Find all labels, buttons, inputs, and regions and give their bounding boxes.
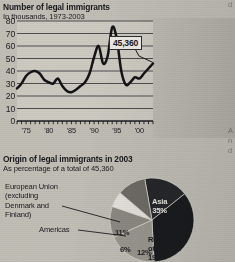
- y-axis-tick-label: 60: [6, 41, 15, 51]
- line-chart-title: Number of legal immigrants: [3, 2, 110, 12]
- pie-slice-label-americas: 6%: [120, 246, 131, 255]
- infographic-page: Number of legal immigrants In thousands,…: [0, 0, 235, 262]
- pie-chart-subtitle: As percentage of a total of 45,360: [3, 164, 114, 173]
- pie-annotation-european-union: European Union (excluding Denmark and Fi…: [5, 182, 58, 220]
- y-axis-tick-label: 80: [6, 16, 15, 26]
- y-axis-tick-label: 40: [6, 66, 15, 76]
- x-axis-tick-label: '90: [90, 126, 99, 135]
- pie-annotation-americas: Americas: [39, 225, 69, 234]
- line-chart-canvas: [0, 18, 170, 136]
- x-axis-tick-label: '00: [135, 126, 144, 135]
- x-axis-tick-label: '80: [44, 126, 53, 135]
- edge-text-fragment-right: A n d: [228, 126, 233, 156]
- pie-chart-title: Origin of legal immigrants in 2003: [3, 154, 132, 164]
- pie-slice-label-rest-of-europe: Rest of Europe 19%: [148, 236, 182, 262]
- line-chart: 01020304050607080 '75'80'85'90'95'00: [0, 18, 170, 136]
- pie-slice-label-european-union: 11%: [115, 229, 129, 238]
- y-axis-tick-label: 50: [6, 54, 15, 64]
- edge-text-fragment-top: d: [228, 0, 232, 10]
- y-axis-tick-label: 10: [6, 104, 15, 114]
- pie-chart: European Union (excluding Denmark and Fi…: [0, 176, 235, 262]
- line-chart-y-axis: 01020304050607080: [0, 18, 15, 121]
- line-chart-x-axis: '75'80'85'90'95'00: [0, 126, 170, 138]
- x-axis-tick-label: '85: [67, 126, 76, 135]
- x-axis-tick-label: '75: [22, 126, 31, 135]
- y-axis-tick-label: 70: [6, 29, 15, 39]
- y-axis-tick-label: 30: [6, 79, 15, 89]
- data-callout-45360: 45,360: [109, 36, 142, 50]
- y-axis-tick-label: 20: [6, 91, 15, 101]
- y-axis-tick-label: 0: [10, 116, 15, 126]
- pie-slice-label-asia: Asia 35%: [152, 198, 167, 216]
- x-axis-tick-label: '95: [112, 126, 121, 135]
- pie-slice-label-unlabelled: 12%: [137, 249, 152, 258]
